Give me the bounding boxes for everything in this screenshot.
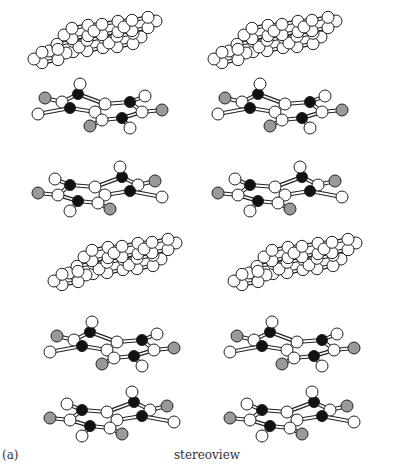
nucleobase-pair-left <box>44 316 180 372</box>
nucleobase-pair-right <box>224 386 360 442</box>
graphene-sheet-left <box>48 233 182 290</box>
nucleobase-pair-left <box>32 161 168 217</box>
stereoview-figure <box>0 0 414 468</box>
nucleobase-pair-right <box>212 78 348 134</box>
graphene-sheet-right <box>228 233 362 290</box>
nucleobase-pair-left <box>44 386 180 442</box>
figure-caption: stereoview <box>0 448 414 462</box>
nucleobase-pair-right <box>224 316 360 372</box>
nucleobase-pair-left <box>32 78 168 134</box>
graphene-sheet-left <box>28 11 162 68</box>
nucleobase-pair-right <box>212 161 348 217</box>
graphene-sheet-right <box>208 11 342 68</box>
